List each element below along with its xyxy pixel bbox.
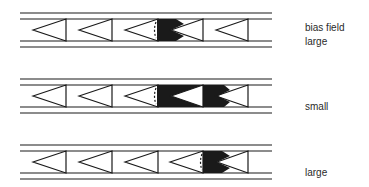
strip-row-3 [20,145,272,179]
row3-field-value: large [305,166,327,180]
row1-field-value: large [305,35,327,49]
bias-field-label: bias field [305,21,344,35]
strip-row-1 [20,13,272,47]
strip-row-2 [20,79,272,113]
row2-field-value: small [305,100,328,114]
